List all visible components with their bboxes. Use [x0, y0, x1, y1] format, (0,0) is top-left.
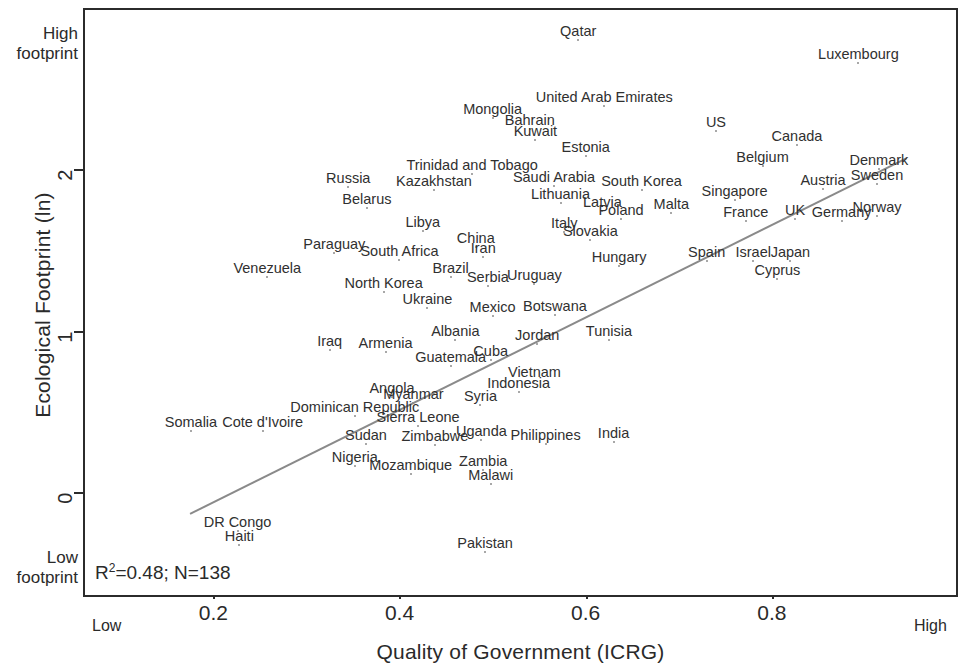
data-point-label: Russia [326, 171, 370, 186]
data-point-label: Zimbabwe [401, 429, 468, 444]
data-point [480, 439, 482, 441]
data-point-label: Jordan [515, 328, 559, 343]
data-point-label: Lithuania [531, 187, 590, 202]
data-point-label: Germany [812, 205, 872, 220]
data-point [354, 415, 356, 417]
data-point-label: South Korea [601, 174, 682, 189]
x-axis-tick-label: 0.2 [178, 601, 248, 625]
data-point [533, 283, 535, 285]
y-axis-high-anchor-line1: High [0, 24, 78, 44]
data-point [434, 444, 436, 446]
data-point-label: United Arab Emirates [536, 90, 673, 105]
x-axis-tick-label: 0.6 [551, 601, 621, 625]
data-point-label: Iran [471, 241, 496, 256]
y-axis-low-anchor: Low footprint [0, 548, 78, 588]
data-point [794, 218, 796, 220]
data-point-label: Libya [405, 215, 440, 230]
data-point [398, 259, 400, 261]
data-point [482, 256, 484, 258]
data-point [670, 212, 672, 214]
data-point [876, 183, 878, 185]
data-point-label: Brazil [433, 261, 469, 276]
data-point-label: Haiti [225, 529, 254, 544]
data-point [492, 117, 494, 119]
data-point-label: Qatar [560, 24, 596, 39]
data-point [490, 483, 492, 485]
data-point [492, 315, 494, 317]
data-point-label: Luxembourg [818, 47, 899, 62]
data-point [776, 278, 778, 280]
data-point [857, 62, 859, 64]
data-point-label: Sudan [345, 428, 387, 443]
data-point [641, 189, 643, 191]
data-point-label: Mexico [470, 300, 516, 315]
data-point [410, 473, 412, 475]
data-point [608, 339, 610, 341]
data-point-label: Malta [654, 197, 689, 212]
data-point [560, 202, 562, 204]
y-axis-low-anchor-line2: footprint [0, 568, 78, 588]
data-point [876, 215, 878, 217]
data-point-label: Israel [735, 245, 770, 260]
data-point [479, 404, 481, 406]
regression-line [83, 8, 958, 597]
data-point-label: Botswana [523, 299, 587, 314]
stats-r-squared-label: R2 [95, 562, 115, 583]
x-axis-high-anchor: High [914, 617, 947, 635]
x-axis-tick-label: 0.4 [364, 601, 434, 625]
data-point-label: Slovakia [563, 224, 618, 239]
data-point [589, 239, 591, 241]
data-point-label: Singapore [702, 184, 768, 199]
data-point-label: Somalia [165, 415, 217, 430]
data-point [706, 260, 708, 262]
data-point [620, 218, 622, 220]
data-point-label: Malawi [468, 468, 513, 483]
plot-area: QatarLuxembourgUnited Arab EmiratesMongo… [83, 8, 958, 597]
data-point-label: Paraguay [303, 237, 365, 252]
data-point [426, 307, 428, 309]
data-point-label: South Africa [360, 244, 438, 259]
data-point-label: Sweden [851, 168, 903, 183]
data-point-label: Kazakhstan [396, 174, 472, 189]
data-point-label: Poland [598, 203, 643, 218]
data-point [347, 186, 349, 188]
y-axis-tick-mark [74, 331, 83, 333]
data-point-label: Cyprus [754, 263, 800, 278]
data-point [365, 443, 367, 445]
stats-values: =0.48; N=138 [115, 562, 230, 583]
data-point-label: Tunisia [586, 324, 632, 339]
data-point [417, 425, 419, 427]
data-point-label: Guatemala [415, 350, 486, 365]
data-point [450, 276, 452, 278]
data-point-label: Mozambique [369, 458, 452, 473]
x-axis-low-anchor: Low [92, 617, 121, 635]
data-point [385, 351, 387, 353]
x-axis-title: Quality of Government (ICRG) [83, 640, 958, 664]
y-axis-high-anchor-line2: footprint [0, 44, 78, 64]
y-axis-high-anchor: High footprint [0, 24, 78, 64]
data-point-label: Estonia [561, 140, 609, 155]
data-point-label: Pakistan [457, 536, 513, 551]
data-point-label: Ukraine [402, 292, 452, 307]
data-point [554, 314, 556, 316]
data-point [354, 465, 356, 467]
data-point [484, 551, 486, 553]
data-point [734, 199, 736, 201]
data-point [613, 441, 615, 443]
data-point-label: Austria [800, 173, 845, 188]
data-point-label: Canada [772, 129, 823, 144]
data-point [518, 391, 520, 393]
data-point [433, 189, 435, 191]
data-point-label: Belgium [736, 150, 788, 165]
data-point [490, 359, 492, 361]
data-point [536, 343, 538, 345]
data-point-label: UK [785, 203, 805, 218]
y-axis-tick-label: 1 [54, 331, 77, 387]
data-point-label: Hungary [592, 250, 647, 265]
data-point-label: Kuwait [514, 124, 558, 139]
data-point [585, 155, 587, 157]
data-point [238, 544, 240, 546]
data-point [422, 230, 424, 232]
data-point-label: Serbia [467, 270, 509, 285]
data-point [762, 165, 764, 167]
